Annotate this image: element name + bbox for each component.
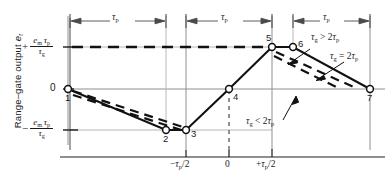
- a0-rel: >: [320, 32, 325, 42]
- span-2-arrowhead-left: [187, 18, 197, 24]
- annotation-tg-less: τg < 2τp: [246, 117, 274, 127]
- num-tau-sub: p: [47, 122, 50, 128]
- data-point-6: [290, 44, 297, 51]
- num-e-sub: m: [37, 122, 42, 128]
- x-tick-label-plus-half-tp: +τp/2: [256, 160, 275, 170]
- data-point-5: [269, 44, 276, 51]
- a2-rel: <: [255, 116, 260, 126]
- den-tau-sub: g: [42, 133, 45, 139]
- alt-curve-left-tg-less: [73, 95, 184, 131]
- a0-subg: g: [314, 36, 317, 43]
- data-point-3: [183, 127, 190, 134]
- span-1-arrowhead-left: [71, 18, 81, 24]
- y-tick-label-plus: + em τp τg: [22, 36, 53, 57]
- span-1-sub: p: [115, 16, 118, 23]
- y-axis-caption-text: Range–gate output: [12, 44, 23, 128]
- span-3-label: τp: [323, 13, 330, 23]
- xt0-frac: /2: [182, 159, 189, 169]
- den-tau-sub: g: [42, 51, 45, 57]
- annotation-tg-equal: τg = 2τp: [330, 52, 358, 62]
- y-tick-minus-fraction: em τp τg: [30, 118, 53, 139]
- data-point-2-label: 2: [163, 134, 168, 144]
- y-tick-plus-denominator: τg: [30, 47, 53, 57]
- a2-subp: p: [271, 120, 274, 127]
- span-1-label: τp: [112, 13, 119, 23]
- y-tick-plus-sign: +: [22, 41, 30, 52]
- x-tick-label-minus-half-tp: −τp/2: [170, 160, 189, 170]
- a1-rel: =: [339, 51, 344, 61]
- x-axis-ticks: [186, 149, 272, 157]
- y-tick-minus-sign: −: [22, 123, 30, 134]
- y-tick-label-zero: 0: [50, 83, 56, 93]
- data-point-1-label: 1: [65, 93, 70, 103]
- y-tick-label-minus: − em τp τg: [22, 118, 53, 139]
- annotation-tg-greater: τg > 2τp: [311, 33, 339, 43]
- data-point-5-label: 5: [266, 33, 271, 43]
- span-3-sub: p: [326, 16, 329, 23]
- span-1-arrowhead-right: [155, 18, 165, 24]
- data-point-3-label: 3: [191, 129, 196, 139]
- range-gate-output-figure: Range–gate output er + em τp τg 0 − em τ…: [0, 0, 390, 181]
- a2-subg: g: [249, 120, 252, 127]
- y-tick-minus-denominator: τg: [30, 129, 53, 139]
- xt2-frac: /2: [268, 159, 275, 169]
- y-tick-plus-fraction: em τp τg: [30, 36, 53, 57]
- a0-subp: p: [336, 36, 339, 43]
- x-tick-label-zero: 0: [225, 160, 230, 170]
- num-tau-sub: p: [47, 40, 50, 46]
- num-e-sub: m: [37, 40, 42, 46]
- data-point-6-label: 6: [298, 39, 303, 49]
- data-point-4: [226, 86, 233, 93]
- span-3-arrowhead-left: [294, 18, 304, 24]
- a1-subp: p: [355, 55, 358, 62]
- figure-canvas: [0, 0, 390, 181]
- span-2-sub: p: [224, 16, 227, 23]
- alt-curves-left: [73, 91, 186, 131]
- data-point-7-label: 7: [367, 93, 372, 103]
- span-2-arrowhead-right: [261, 18, 271, 24]
- span-3-arrowhead-right: [359, 18, 369, 24]
- data-point-4-label: 4: [233, 92, 238, 102]
- span-2-label: τp: [221, 13, 228, 23]
- alt-curve-left-tg-greater: [73, 91, 186, 128]
- a1-subg: g: [333, 55, 336, 62]
